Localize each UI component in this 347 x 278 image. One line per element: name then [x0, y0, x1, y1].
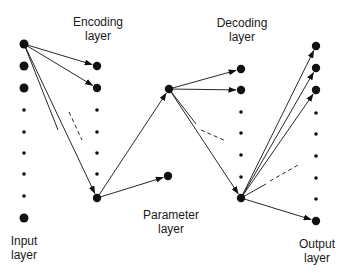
arrow-edge — [24, 44, 92, 65]
arrow-edge — [24, 44, 95, 193]
encoding-layer-node — [95, 130, 99, 134]
encoding-layer-node — [95, 172, 99, 176]
input-label-line1: Input — [4, 234, 44, 248]
parameter-layer-node — [164, 172, 172, 180]
input-layer-node — [20, 40, 29, 49]
input-layer-node — [20, 84, 29, 93]
output-layer-node — [312, 217, 320, 225]
output-layer-node — [312, 42, 320, 50]
encoding-label-line1: Encoding — [68, 15, 128, 29]
decoding-layer-node — [239, 153, 243, 157]
output-layer-label: Output layer — [294, 237, 340, 265]
arrow-edge — [241, 72, 314, 198]
input-label-line2: layer — [4, 248, 44, 262]
hub-layer-node — [165, 85, 173, 93]
arrow-edge — [169, 89, 236, 90]
output-layer-node — [314, 197, 318, 201]
parameter-layer-label: Parameter layer — [136, 208, 206, 236]
input-layer-label: Input layer — [4, 234, 44, 262]
input-layer-node — [22, 194, 26, 198]
arrow-edge — [97, 93, 166, 198]
ellipsis-dashed-edge — [69, 112, 82, 140]
input-layer-node — [22, 130, 26, 134]
output-layer-node — [312, 86, 320, 94]
decoding-layer-node — [237, 86, 245, 94]
output-layer-node — [312, 64, 320, 72]
ellipsis-dashed-edge — [270, 164, 300, 181]
input-layer-node — [20, 62, 29, 71]
arrow-edge — [169, 70, 236, 89]
encoding-layer-node — [95, 151, 99, 155]
arrow-edge — [241, 198, 311, 220]
decoding-layer-node — [237, 65, 245, 73]
output-layer-node — [314, 176, 318, 180]
parameter-label-line1: Parameter — [136, 208, 206, 222]
input-layer-node — [22, 172, 26, 176]
decoding-layer-node — [239, 110, 243, 114]
arrow-edge — [241, 94, 313, 198]
encoding-label-line2: layer — [68, 29, 128, 43]
input-layer-node — [22, 151, 26, 155]
neuron-nodes — [20, 40, 321, 226]
decoding-layer-node — [239, 131, 243, 135]
output-layer-node — [314, 111, 318, 115]
plain-edge — [169, 89, 196, 124]
arrow-edge — [169, 89, 238, 194]
connection-edges — [24, 44, 314, 220]
arrow-edge — [241, 50, 314, 198]
ellipsis-dashed-edge — [201, 130, 226, 141]
output-layer-node — [314, 154, 318, 158]
plain-edge — [24, 44, 58, 130]
parameter-label-line2: layer — [136, 222, 206, 236]
input-layer-node — [20, 214, 29, 223]
decoding-layer-node — [239, 175, 243, 179]
encoding-layer-node — [95, 108, 99, 112]
output-label-line2: layer — [294, 251, 340, 265]
encoding-layer-node — [93, 194, 101, 202]
arrow-edge — [97, 177, 163, 198]
encoding-layer-node — [93, 62, 101, 70]
input-layer-node — [22, 108, 26, 112]
decoding-layer-label: Decoding layer — [212, 16, 272, 44]
encoding-layer-node — [93, 84, 101, 92]
output-layer-node — [314, 132, 318, 136]
decoding-layer-node — [237, 194, 245, 202]
encoding-layer-label: Encoding layer — [68, 15, 128, 43]
output-label-line1: Output — [294, 237, 340, 251]
decoding-label-line1: Decoding — [212, 16, 272, 30]
decoding-label-line2: layer — [212, 30, 272, 44]
